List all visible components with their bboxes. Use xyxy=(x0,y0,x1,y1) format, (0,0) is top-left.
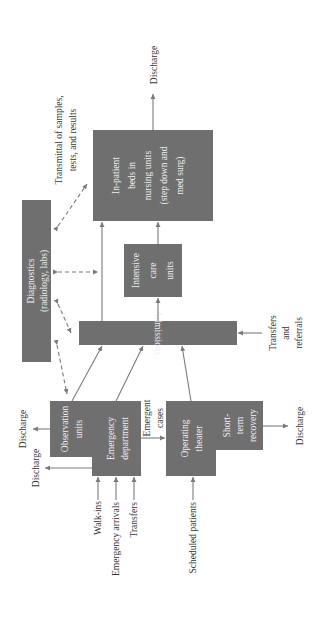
diagnostics-admissions-lower-dashed-arrow xyxy=(58,304,71,333)
transmittal-label: Transmittal of samples, tests, and resul… xyxy=(54,95,78,184)
emergent-cases-label: Emergent cases xyxy=(142,399,165,436)
operating-line-1: Operating xyxy=(180,419,190,457)
diagnostics-box: Diagnostics (radiology, labs) xyxy=(22,200,51,362)
emergency-line-2: department xyxy=(120,417,130,460)
observation-units-box: Observation units xyxy=(50,401,92,457)
svg-text:Emergency arrivals: Emergency arrivals xyxy=(111,502,121,576)
observation-line-2: units xyxy=(74,419,84,438)
emergency-arrivals-label: Emergency arrivals xyxy=(111,502,121,576)
emergency-to-admissions-arrow xyxy=(116,346,143,401)
inpatient-line-5: med surg) xyxy=(175,156,186,194)
icu-line-2: care xyxy=(148,263,158,279)
svg-text:referrals: referrals xyxy=(294,317,304,349)
svg-text:Scheduled patients: Scheduled patients xyxy=(188,502,198,574)
icu-line-3: units xyxy=(165,261,175,280)
inpatient-line-1: In-patient xyxy=(111,157,121,194)
inpatient-line-3: nursing units xyxy=(143,151,153,201)
discharge-emergency-label: Discharge xyxy=(31,449,41,487)
svg-text:and: and xyxy=(281,326,291,340)
operating-line-2: theater xyxy=(194,425,204,452)
diagnostics-observation-dashed-arrow xyxy=(57,345,67,394)
svg-text:cases: cases xyxy=(155,408,165,428)
observation-line-1: Observation xyxy=(60,406,70,453)
icu-box: Intensive care units xyxy=(124,244,182,297)
short-term-recovery-box: Short- term recovery xyxy=(216,401,263,450)
diagnostics-inpatient-dashed-arrow xyxy=(58,184,87,226)
recovery-line-3: recovery xyxy=(248,409,258,442)
transfers-referrals-label: Transfers and referrals xyxy=(268,315,304,351)
svg-text:Walk-ins: Walk-ins xyxy=(93,501,103,535)
svg-text:Transmittal of samples,: Transmittal of samples, xyxy=(54,95,64,184)
transfers-label: Transfers xyxy=(129,502,139,538)
inpatient-line-2: beds in xyxy=(127,162,137,189)
svg-text:Discharge: Discharge xyxy=(149,46,159,84)
inpatient-beds-box: In-patient beds in nursing units (step d… xyxy=(93,130,213,221)
svg-text:Emergent: Emergent xyxy=(142,399,152,436)
discharge-recovery-label: Discharge xyxy=(295,407,305,445)
svg-text:tests, and results: tests, and results xyxy=(68,108,78,171)
icu-line-1: Intensive xyxy=(131,253,141,288)
operating-to-admissions-arrow xyxy=(182,346,191,401)
svg-text:Discharge: Discharge xyxy=(18,410,28,448)
inpatient-line-4: (step down and xyxy=(159,146,170,204)
observation-to-admissions-arrow xyxy=(72,346,102,401)
hospital-flow-diagram: In-patient beds in nursing units (step d… xyxy=(0,0,317,623)
operating-theater-box: Operating theater xyxy=(166,401,216,476)
discharge-inpatient-label: Discharge xyxy=(149,46,159,84)
svg-text:Discharge: Discharge xyxy=(295,407,305,445)
emergency-line-1: Emergency xyxy=(106,417,116,460)
emergency-department-box: Emergency department xyxy=(92,401,141,476)
diagnostics-line-2: (radiology, labs) xyxy=(39,250,50,312)
svg-text:Discharge: Discharge xyxy=(31,449,41,487)
scheduled-patients-label: Scheduled patients xyxy=(188,502,198,574)
recovery-line-2: term xyxy=(235,416,245,434)
discharge-observation-label: Discharge xyxy=(18,410,28,448)
svg-text:Transfers: Transfers xyxy=(268,315,278,351)
walk-ins-label: Walk-ins xyxy=(93,501,103,535)
recovery-line-1: Short- xyxy=(222,414,232,438)
diagnostics-line-1: Diagnostics xyxy=(26,258,36,303)
svg-text:Transfers: Transfers xyxy=(129,502,139,538)
